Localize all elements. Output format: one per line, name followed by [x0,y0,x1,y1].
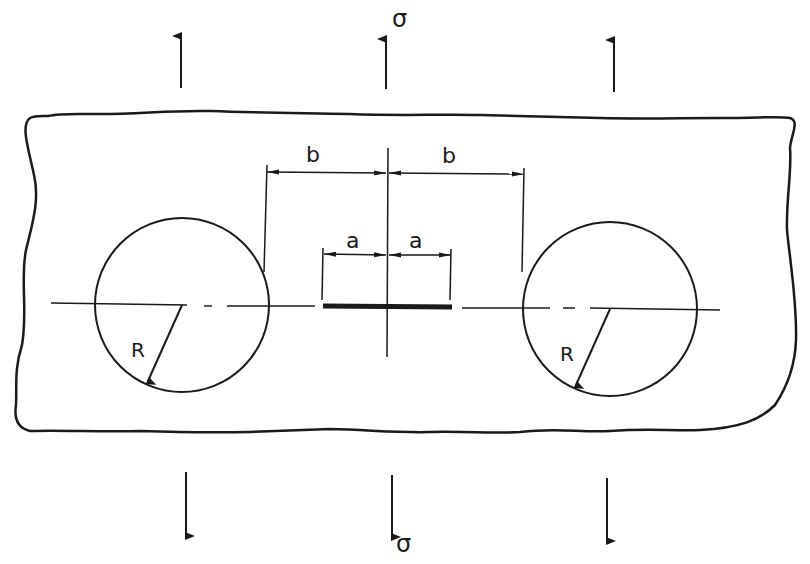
radius-label-left: R [131,338,145,362]
stress-label-top: σ [392,5,407,33]
dimension-label-a-right: a [409,228,422,253]
dimension-line-b-right [389,173,524,174]
dimension-label-a-left: a [346,228,359,253]
dimension-line-a-left [324,254,386,255]
diagram-canvas: σ R R b b a a [0,0,810,564]
dimension-a [322,248,451,300]
central-crack [323,306,452,307]
extension-line-b-right [522,168,524,272]
load-arrows-top [181,36,614,92]
dimension-line-b-left [267,172,386,173]
dimension-label-b-right: b [442,143,456,168]
stress-label-bottom: σ [396,530,411,558]
dimension-b [264,165,524,272]
radius-arrow-right [576,309,610,385]
extension-line-a-right [450,249,451,300]
radius-arrow-left [148,305,182,381]
hole-left: R [95,218,269,392]
vertical-centerline [387,148,388,357]
dimension-label-b-left: b [306,142,320,167]
plate-outline [15,111,796,433]
radius-label-right: R [560,342,574,366]
extension-line-b-left [264,165,267,272]
extension-line-a-left [322,248,323,300]
